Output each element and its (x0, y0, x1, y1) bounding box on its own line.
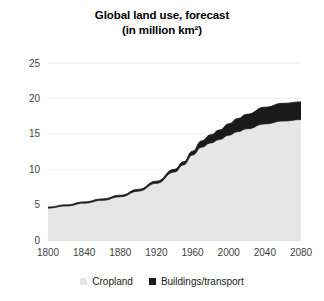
x-tick-label-1920: 1920 (145, 247, 168, 258)
y-tick-label-25: 25 (29, 58, 41, 69)
x-tick-label-2000: 2000 (218, 247, 241, 258)
y-tick-label-20: 20 (29, 93, 41, 104)
x-axis-labels-group: 18001840188019201960200020402080 (37, 247, 313, 258)
x-tick-label-1800: 1800 (37, 247, 60, 258)
x-tick-label-1960: 1960 (181, 247, 204, 258)
y-tick-label-10: 10 (29, 164, 41, 175)
legend-label-cropland: Cropland (92, 276, 133, 287)
legend-label-buildings-transport: Buildings/transport (161, 276, 244, 287)
x-tick-label-1880: 1880 (109, 247, 132, 258)
x-tick-label-2040: 2040 (254, 247, 277, 258)
legend-swatch-cropland (80, 278, 87, 285)
x-tick-label-1840: 1840 (73, 247, 96, 258)
legend-swatch-buildings (149, 278, 156, 285)
y-axis-labels-group: 0510152025 (29, 58, 41, 246)
area-series-group (48, 102, 301, 240)
x-tick-label-2080: 2080 (290, 247, 313, 258)
area-series-cropland (48, 120, 301, 240)
legend-item-cropland[interactable]: Cropland (80, 276, 133, 287)
chart-container: Global land use, forecast (in million km… (0, 0, 324, 301)
chart-plot: 0510152025 18001840188019201960200020402… (0, 0, 324, 276)
chart-legend: Cropland Buildings/transport (0, 276, 324, 287)
y-tick-label-5: 5 (34, 199, 40, 210)
legend-item-buildings-transport[interactable]: Buildings/transport (149, 276, 244, 287)
y-tick-label-0: 0 (34, 235, 40, 246)
y-tick-label-15: 15 (29, 128, 41, 139)
